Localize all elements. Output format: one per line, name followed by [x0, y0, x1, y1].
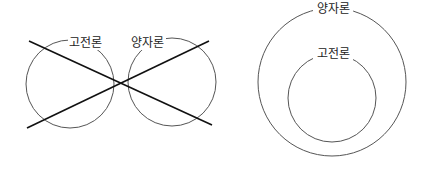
cross-line-2	[27, 41, 209, 128]
classical-circle	[26, 40, 114, 128]
classical-label: 고전론	[69, 36, 102, 50]
classical-inner-circle	[288, 54, 376, 142]
quantum-label: 양자론	[131, 36, 164, 50]
quantum-outer-circle	[258, 8, 406, 156]
quantum-circle	[128, 38, 216, 126]
classical-inner-label: 고전론	[317, 47, 350, 61]
diagram-canvas: 고전론 양자론 양자론 고전론	[0, 0, 430, 171]
quantum-outer-label: 양자론	[317, 2, 350, 16]
nested-theories-diagram: 양자론 고전론	[258, 0, 406, 156]
separate-theories-diagram: 고전론 양자론	[26, 34, 216, 128]
